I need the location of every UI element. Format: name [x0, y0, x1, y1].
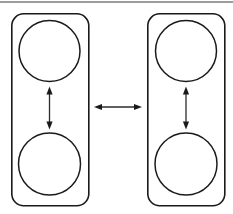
right-vertical-arrow-head-up [183, 87, 189, 95]
horizontal-arrow [94, 104, 142, 110]
diagram-canvas: Two-panel diagram with paired circles an… [0, 0, 233, 214]
left-vertical-arrow-head-down [46, 122, 52, 130]
right-top-circle [156, 21, 217, 82]
horizontal-arrow-head-right [134, 104, 142, 110]
right-vertical-arrow-head-down [183, 122, 189, 130]
right-bottom-circle [155, 133, 217, 195]
right-panel [148, 14, 225, 206]
left-vertical-arrow [46, 87, 52, 130]
horizontal-arrow-head-left [94, 104, 102, 110]
left-bottom-circle [19, 133, 81, 195]
left-vertical-arrow-head-up [46, 87, 52, 95]
right-vertical-arrow [183, 87, 189, 130]
left-panel [12, 14, 89, 206]
diagram-svg [0, 0, 233, 214]
left-top-circle [19, 21, 80, 82]
